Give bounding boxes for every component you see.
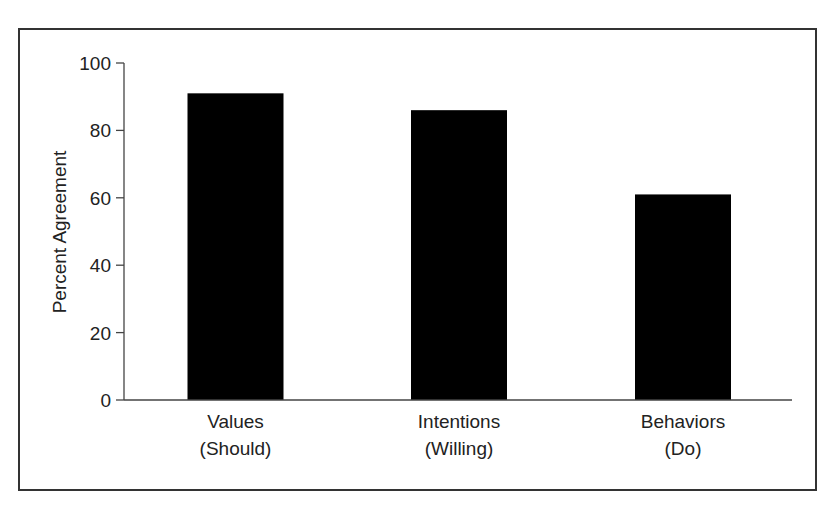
- y-axis-title: Percent Agreement: [49, 150, 70, 313]
- bar: [411, 110, 507, 400]
- x-category-label: (Willing): [425, 438, 494, 459]
- x-category-label: Intentions: [418, 411, 500, 432]
- bar: [188, 93, 284, 400]
- y-axis: 020406080100: [79, 53, 124, 411]
- y-tick-label: 60: [90, 188, 111, 209]
- x-category-label: (Do): [665, 438, 702, 459]
- y-tick-label: 40: [90, 255, 111, 276]
- bars: [188, 93, 732, 400]
- y-tick-label: 20: [90, 323, 111, 344]
- bar-chart: 020406080100 Values(Should)Intentions(Wi…: [0, 0, 838, 515]
- y-tick-label: 0: [100, 390, 111, 411]
- y-tick-label: 80: [90, 120, 111, 141]
- x-axis: Values(Should)Intentions(Willing)Behavio…: [124, 400, 792, 459]
- bar: [635, 194, 731, 400]
- y-tick-label: 100: [79, 53, 111, 74]
- x-category-label: (Should): [200, 438, 272, 459]
- x-category-label: Behaviors: [641, 411, 726, 432]
- x-category-label: Values: [207, 411, 264, 432]
